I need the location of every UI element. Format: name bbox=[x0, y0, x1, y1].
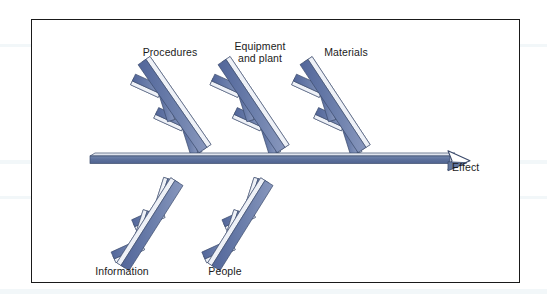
people-main-bone-edge-strip bbox=[208, 178, 265, 266]
procedures-main-bone-edge-strip bbox=[146, 56, 211, 147]
information-main-bone-dark-face bbox=[121, 180, 183, 270]
category-label-information: Information bbox=[81, 266, 163, 278]
category-materials bbox=[292, 57, 370, 155]
people-main-bone-dark-face bbox=[212, 180, 273, 270]
category-procedures bbox=[131, 56, 211, 155]
people-main-bone bbox=[208, 178, 273, 271]
spine-layer bbox=[90, 151, 470, 171]
equipment-and-plant-main-bone-dark-face bbox=[218, 59, 285, 152]
procedures-main-bone-dark-face bbox=[138, 59, 207, 152]
materials-main-bone bbox=[300, 57, 370, 153]
information-main-bone bbox=[117, 178, 183, 271]
category-label-materials: Materials bbox=[309, 47, 383, 59]
equipment-and-plant-main-bone bbox=[218, 57, 289, 153]
information-main-bone-edge-strip bbox=[117, 178, 175, 266]
figure-frame: ProceduresEquipment and plantMaterialsIn… bbox=[31, 19, 520, 283]
category-equipment-and-plant bbox=[210, 57, 289, 156]
category-label-procedures: Procedures bbox=[133, 47, 207, 59]
spine-top-face bbox=[90, 153, 455, 156]
scan-band-3 bbox=[0, 289, 547, 294]
materials-main-bone-dark-face bbox=[300, 59, 366, 152]
effect-label: Effect bbox=[452, 162, 479, 174]
category-label-equipment-and-plant: Equipment and plant bbox=[223, 41, 297, 64]
page-canvas: ProceduresEquipment and plantMaterialsIn… bbox=[0, 0, 547, 297]
category-label-people: People bbox=[187, 266, 263, 278]
equipment-and-plant-main-bone-edge-strip bbox=[226, 57, 289, 148]
materials-main-bone-edge-strip bbox=[308, 57, 370, 148]
spine-front-face bbox=[90, 156, 450, 164]
category-people bbox=[202, 177, 273, 270]
category-information bbox=[111, 177, 183, 270]
procedures-main-bone bbox=[138, 56, 211, 152]
